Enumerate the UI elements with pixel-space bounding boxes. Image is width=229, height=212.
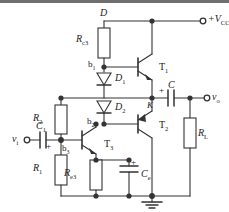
resistor-re3-body: [90, 160, 102, 190]
label-node-k: K: [147, 100, 153, 110]
resistor-rc3-body: [98, 28, 110, 58]
diode-d1-triangle: [97, 73, 111, 85]
t2-emitter-arrow: [138, 114, 146, 122]
label-resistor-re3: Re3: [64, 167, 76, 180]
terminal-input[interactable]: [24, 137, 30, 143]
label-transistor-t1: T1: [159, 61, 168, 74]
label-cap-ce: Ce: [141, 168, 151, 181]
label-node-b3: b3: [62, 143, 70, 155]
resistor-rl-body: [184, 118, 196, 148]
label-transistor-t3: T3: [104, 138, 113, 151]
label-cap-c1: C1: [36, 120, 46, 133]
label-resistor-rc3: Rc3: [76, 33, 88, 46]
junction-re3-top: [93, 157, 98, 162]
label-resistor-r1: R1: [33, 162, 42, 175]
junction-b1: [101, 64, 106, 69]
t2-collector-lead: [138, 129, 152, 138]
junction-vcc-rail: [149, 18, 154, 23]
label-cap-ce-polarity: +: [131, 157, 136, 167]
junction-b2: [101, 121, 106, 126]
circuit-diagram: D +VCC Rc3 b1 T1 D1 D2 + C K vo R2 b2 T2…: [0, 0, 229, 212]
label-cap-c: C: [168, 79, 175, 90]
label-input-vi: vi: [12, 133, 18, 146]
label-diode-d1: D1: [115, 72, 125, 85]
label-diode-d2: D2: [115, 101, 125, 114]
t3-emitter-arrow: [89, 148, 96, 154]
t1-emitter-arrow: [145, 74, 152, 80]
terminal-vcc[interactable]: [200, 18, 206, 24]
junction-ground: [149, 193, 155, 199]
label-node-b2: b2: [87, 116, 95, 128]
label-resistor-rl: RL: [198, 127, 208, 140]
label-transistor-t2: T2: [159, 119, 168, 132]
t3-collector-lead: [82, 127, 96, 136]
junction-output: [187, 95, 192, 100]
label-supply-vcc: +VCC: [208, 13, 229, 26]
junction-re3-bottom: [93, 193, 98, 198]
resistor-r2-body: [55, 105, 67, 134]
label-cap-c1-polarity: +: [46, 141, 51, 151]
junction-ce-bottom: [126, 193, 131, 198]
t1-collector-lead: [138, 54, 152, 63]
junction-r2-top: [58, 95, 63, 100]
terminal-output[interactable]: [204, 95, 210, 101]
label-node-b1: b1: [88, 59, 96, 71]
label-node-d: D: [100, 7, 107, 18]
label-cap-c-polarity: +: [159, 85, 164, 95]
label-output-vo: vo: [212, 91, 220, 104]
diode-d2-triangle: [97, 101, 111, 113]
